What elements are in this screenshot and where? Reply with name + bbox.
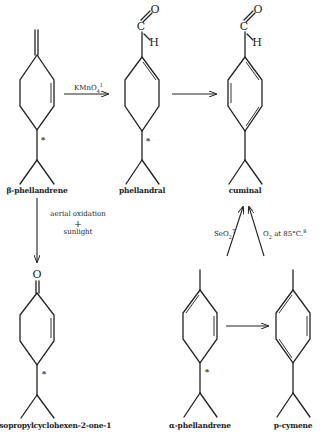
label-isopropylcyclohexenone: 4-isopropylcyclohexen-2-one-1 (0, 421, 111, 430)
reagent-o2-85c: O2 at 85°C.8 (263, 228, 306, 240)
chiral-marker-alpha-phellandrene: * (205, 367, 209, 375)
arrow-o2-85c (249, 207, 264, 256)
structure-alpha-phellandrene (183, 270, 217, 417)
atom-hydrogen-cuminal: H (252, 37, 262, 48)
reagent-seo2: SeO27 (214, 228, 235, 240)
structure-beta-phellandrene (20, 30, 54, 184)
structure-p-cymene (276, 270, 310, 417)
chiral-marker-ketone: * (42, 369, 46, 377)
atom-hydrogen-phellandral: H (149, 37, 159, 48)
chiral-marker-beta-phellandrene: * (41, 135, 45, 143)
chiral-marker-phellandral: * (146, 136, 150, 144)
atom-carbon-phellandral: C (137, 21, 145, 32)
atom-oxygen-phellandral: O (150, 4, 159, 15)
label-beta-phellandrene: β-phellandrene (7, 186, 68, 195)
label-alpha-phellandrene: α-phellandrene (169, 421, 231, 430)
label-p-cymene: p-cymene (274, 421, 313, 430)
atom-oxygen-ketone: O (32, 269, 41, 280)
reagent-kmno4: KMnO41 (74, 82, 103, 94)
atom-carbon-cuminal: C (240, 21, 248, 32)
structure-isopropylcyclohexenone (20, 281, 54, 418)
atom-oxygen-cuminal: O (253, 4, 262, 15)
label-phellandral: phellandral (119, 186, 165, 195)
label-cuminal: cuminal (229, 186, 262, 195)
reagent-aerial-oxidation: aerial oxidation + sunlight (48, 210, 108, 237)
